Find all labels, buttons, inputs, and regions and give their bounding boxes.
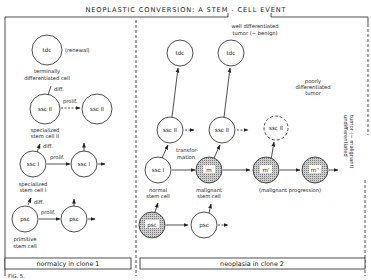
diff-label: diff. [34,199,44,205]
cell-tdc: tdc [32,35,62,65]
diff-arrow [37,144,40,152]
transformation-label: mation [177,154,195,160]
cell-psc-a: psc [12,206,38,232]
transformation-label: transfor- [176,147,198,153]
up-arrow [224,68,230,117]
tumor-label: tumor [305,90,322,96]
neoplastic-conversion-diagram: NEOPLASTIC CONVERSION: A STEM - CELL EVE… [0,0,371,280]
cell-psc: psc [191,212,217,238]
cell-malignant-m: m [196,157,222,183]
cell-psc-stippled: psc [139,212,165,238]
svg-text:ssc I: ssc I [78,161,91,167]
svg-text:m'': m'' [311,167,320,173]
up-arrow [209,204,211,213]
neoplasia-caption: neoplasia in clone 2 [220,260,284,268]
svg-text:ssc II: ssc II [90,106,104,112]
cell-ssc2-a: ssc II [157,117,183,143]
svg-text:psc: psc [69,216,79,223]
benign-tumor-label: tumor (~ benign) [232,30,277,37]
stem-cell-label: stem cell [13,243,37,249]
cell-malignant-m1: m' [253,157,279,183]
diff-line [48,86,51,95]
cell-malignant-m2: m'' [302,157,328,183]
cell-psc-b: psc [61,206,87,232]
up-arrow [214,145,220,158]
stem-cell-i-label: stem cell I [20,187,47,193]
svg-text:ssc II: ssc II [269,125,283,131]
diff-label: diff. [43,143,53,149]
svg-text:tdc: tdc [43,47,52,53]
svg-text:m': m' [263,167,270,173]
svg-text:ssc II: ssc II [38,106,52,112]
up-arrow [271,142,274,160]
cell-ssc2-b: ssc II [209,117,235,143]
renewal-label: (renewal) [65,47,90,53]
svg-text:tdc: tdc [227,50,236,56]
svg-text:ssc I: ssc I [152,167,165,173]
terminally-label: terminally [34,68,60,75]
up-arrow [172,68,178,117]
cell-ssc1-normal: ssc I [145,157,171,183]
svg-text:ssc II: ssc II [163,127,177,133]
svg-text:tdc: tdc [176,50,185,56]
prolif-label: prolif. [41,209,56,216]
up-arrow [162,145,168,158]
cell-ssc2-c-dashed: ssc II [264,116,288,140]
prolif-label: prolif. [50,154,65,161]
undifferentiated-tumor-label: undifferentiated tumor (~ malignant) [343,115,355,169]
cell-tdc-b: tdc [218,40,244,66]
primitive-label: primitive [13,236,36,243]
diff-label: diff. [54,86,64,92]
svg-text:psc: psc [147,222,157,229]
svg-text:m: m [206,167,211,173]
cell-ssc1-b: ssc I [71,151,97,177]
right-panel: well differentiated tumor (~ benign) tdc… [139,23,365,269]
well-differentiated-label: well differentiated [231,23,278,29]
svg-text:psc: psc [20,216,30,223]
cell-ssc2-b: ssc II [82,94,112,124]
normalcy-caption: normalcy in clone 1 [37,260,100,268]
cell-ssc1-a: ssc I [20,151,46,177]
svg-text:ssc II: ssc II [215,127,229,133]
figure-label: FIG. 5. [8,273,25,279]
svg-text:psc: psc [199,222,209,229]
svg-text:tumor (~ malignant): tumor (~ malignant) [348,115,355,169]
diff-arrow [28,198,31,205]
malignant-progression-label: (malignant progression) [259,187,321,194]
differentiated-cell-label: differentiated cell [24,75,70,81]
stem-cell-ii-label: stem cell II [31,133,60,139]
svg-text:ssc I: ssc I [27,161,40,167]
prolif-label: prolif. [63,98,78,105]
up-arrow [155,203,158,212]
diagram-title: NEOPLASTIC CONVERSION: A STEM - CELL EVE… [85,6,286,14]
cell-tdc-a: tdc [167,40,193,66]
stem-cell-label: stem cell [146,193,170,199]
cell-ssc2-a: ssc II [30,94,60,124]
svg-text:undifferentiated: undifferentiated [343,115,349,157]
stem-cell-label: stem cell [197,193,221,199]
left-panel: tdc (renewal) terminally differentiated … [5,35,131,269]
